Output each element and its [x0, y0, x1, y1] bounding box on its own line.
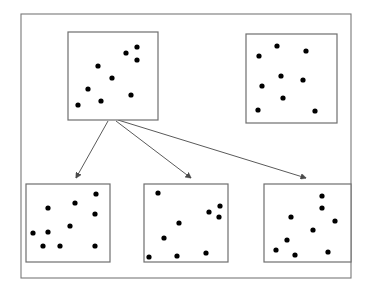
data-point-dot — [300, 77, 305, 82]
data-point-dot — [155, 190, 160, 195]
data-point-dot — [284, 237, 289, 242]
data-point-dot — [57, 243, 62, 248]
data-point-dot — [217, 203, 222, 208]
data-point-dot — [292, 252, 297, 257]
data-point-dot — [288, 214, 293, 219]
cluster-box-bottom-middle — [144, 184, 228, 262]
data-point-dot — [67, 223, 72, 228]
diagram-root — [0, 0, 371, 293]
data-point-dot — [176, 220, 181, 225]
data-point-dot — [273, 247, 278, 252]
data-point-dot — [75, 102, 80, 107]
data-point-dot — [109, 75, 114, 80]
data-point-dot — [332, 218, 337, 223]
data-point-dot — [203, 250, 208, 255]
cluster-box-border-bottom-middle — [144, 184, 228, 262]
data-point-dot — [303, 48, 308, 53]
data-point-dot — [256, 53, 261, 58]
data-point-dot — [98, 98, 103, 103]
data-point-dot — [255, 107, 260, 112]
data-point-dot — [134, 57, 139, 62]
data-point-dot — [161, 235, 166, 240]
data-point-dot — [319, 193, 324, 198]
data-point-dot — [92, 243, 97, 248]
data-point-dot — [45, 205, 50, 210]
data-point-dot — [123, 50, 128, 55]
data-point-dot — [325, 249, 330, 254]
data-point-dot — [259, 83, 264, 88]
data-point-dot — [128, 92, 133, 97]
data-point-dot — [312, 108, 317, 113]
cluster-box-bottom-right — [264, 184, 351, 262]
data-point-dot — [40, 243, 45, 248]
data-point-dot — [72, 200, 77, 205]
data-point-dot — [85, 86, 90, 91]
data-point-dot — [95, 63, 100, 68]
cluster-box-top-left — [68, 32, 158, 120]
data-point-dot — [319, 205, 324, 210]
data-point-dot — [45, 229, 50, 234]
cluster-box-top-right — [246, 34, 337, 123]
data-point-dot — [146, 254, 151, 259]
data-point-dot — [206, 209, 211, 214]
diagram-canvas — [0, 0, 371, 293]
data-point-dot — [30, 230, 35, 235]
data-point-dot — [274, 43, 279, 48]
cluster-box-bottom-left — [26, 184, 110, 262]
data-point-dot — [310, 227, 315, 232]
data-point-dot — [92, 211, 97, 216]
data-point-dot — [216, 214, 221, 219]
data-point-dot — [134, 44, 139, 49]
data-point-dot — [278, 73, 283, 78]
data-point-dot — [93, 191, 98, 196]
data-point-dot — [174, 253, 179, 258]
data-point-dot — [280, 95, 285, 100]
